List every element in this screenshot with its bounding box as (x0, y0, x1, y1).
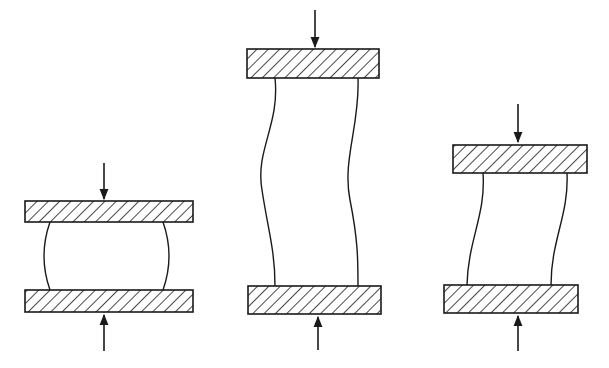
specimen-right-side (163, 222, 169, 290)
specimen-shearing (444, 104, 587, 351)
specimen-right-side (348, 78, 358, 286)
bottom-platen (25, 290, 193, 312)
specimen-left-side (467, 173, 483, 285)
specimen-left-side (261, 78, 276, 286)
specimen-double-buckling (247, 10, 381, 350)
specimen-left-side (44, 222, 50, 290)
compression-diagram (0, 0, 609, 368)
specimen-barreling (25, 163, 193, 351)
top-platen (453, 145, 587, 173)
bottom-platen (248, 286, 381, 314)
bottom-platen (444, 285, 578, 313)
top-platen (25, 201, 193, 222)
top-platen (247, 49, 379, 78)
specimen-right-side (551, 173, 567, 285)
